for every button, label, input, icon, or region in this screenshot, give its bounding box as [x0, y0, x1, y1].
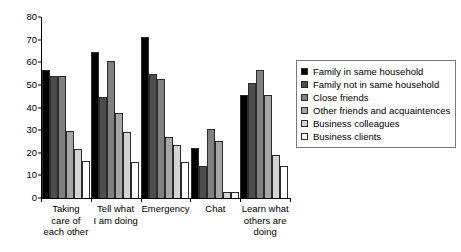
- bar: [58, 76, 66, 198]
- x-axis-label: Learn whatothers aredoing: [240, 203, 290, 238]
- bar: [42, 70, 50, 198]
- bar: [207, 129, 215, 198]
- bar: [50, 76, 58, 198]
- x-group-separator: [41, 198, 42, 202]
- bar-group: [140, 17, 190, 198]
- legend-item: Business clients: [301, 130, 450, 143]
- bar: [173, 145, 181, 198]
- x-group-separator: [240, 198, 241, 202]
- bar: [149, 74, 157, 198]
- x-group-separator: [141, 198, 142, 202]
- x-axis-label: Emergency: [140, 203, 190, 238]
- legend-label: Family not in same household: [313, 80, 439, 90]
- legend-item: Other friends and acquaintences: [301, 104, 450, 117]
- bar: [99, 97, 107, 198]
- bar: [264, 95, 272, 198]
- bar: [66, 131, 74, 198]
- legend-swatch-icon: [301, 133, 308, 140]
- bar: [181, 162, 189, 198]
- bar: [248, 83, 256, 198]
- legend-swatch-icon: [301, 107, 308, 114]
- plot-area: 01020304050607080: [41, 17, 289, 198]
- x-axis-label-line: Emergency: [141, 203, 189, 215]
- bar: [240, 95, 248, 198]
- x-axis-label-line: doing: [241, 226, 289, 238]
- bar-groups: [41, 17, 289, 198]
- legend-label: Business clients: [313, 132, 381, 142]
- bar-chart: 01020304050607080 Takingcare ofeach othe…: [0, 0, 461, 252]
- bar: [191, 148, 199, 198]
- x-axis-label-line: Learn what: [241, 203, 289, 215]
- bar: [74, 149, 82, 198]
- bar: [131, 162, 139, 198]
- bar: [115, 113, 123, 198]
- bar: [272, 155, 280, 198]
- y-tick-label: 40: [26, 103, 41, 113]
- bar: [215, 141, 223, 198]
- legend-label: Business colleagues: [313, 119, 400, 129]
- y-tick-label: 0: [32, 193, 41, 203]
- x-axis-label-line: care of: [42, 215, 90, 227]
- y-tick-label: 30: [26, 125, 41, 135]
- bar: [157, 79, 165, 198]
- legend-label: Other friends and acquaintences: [313, 106, 450, 116]
- bar-group: [91, 17, 141, 198]
- y-tick-label: 20: [26, 148, 41, 158]
- bar: [82, 161, 90, 198]
- x-axis-labels: Takingcare ofeach otherTell whatI am doi…: [41, 203, 290, 238]
- bar: [231, 192, 239, 198]
- legend-label: Family in same household: [313, 67, 423, 77]
- legend-swatch-icon: [301, 120, 308, 127]
- x-axis-label-line: Chat: [192, 203, 240, 215]
- bar-group: [190, 17, 240, 198]
- x-axis-label-line: each other: [42, 226, 90, 238]
- legend-item: Family not in same household: [301, 78, 450, 91]
- y-tick-label: 70: [26, 35, 41, 45]
- y-tick-label: 10: [26, 171, 41, 181]
- bar: [123, 132, 131, 198]
- legend: Family in same householdFamily not in sa…: [296, 60, 456, 148]
- bar: [256, 70, 264, 198]
- bar: [280, 166, 288, 198]
- bar: [141, 37, 149, 198]
- legend-swatch-icon: [301, 94, 308, 101]
- x-axis-label-line: Taking: [42, 203, 90, 215]
- y-tick-label: 60: [26, 58, 41, 68]
- legend-item: Business colleagues: [301, 117, 450, 130]
- bar-group: [239, 17, 289, 198]
- y-tick-label: 80: [26, 12, 41, 22]
- bar: [107, 61, 115, 198]
- legend-item: Close friends: [301, 91, 450, 104]
- legend-item: Family in same household: [301, 65, 450, 78]
- bar: [199, 166, 207, 198]
- x-axis-line: [41, 198, 290, 199]
- x-group-separator: [290, 198, 291, 202]
- x-axis-label: Tell whatI am doing: [91, 203, 141, 238]
- x-group-separator: [190, 198, 191, 202]
- bar: [165, 137, 173, 198]
- bar: [91, 52, 99, 198]
- x-axis-label: Chat: [191, 203, 241, 238]
- x-axis-label-line: Tell what: [92, 203, 140, 215]
- x-group-separator: [91, 198, 92, 202]
- legend-label: Close friends: [313, 93, 368, 103]
- legend-swatch-icon: [301, 68, 308, 75]
- y-tick-label: 50: [26, 80, 41, 90]
- x-axis-label: Takingcare ofeach other: [41, 203, 91, 238]
- bar-group: [41, 17, 91, 198]
- legend-swatch-icon: [301, 81, 308, 88]
- x-axis-label-line: I am doing: [92, 215, 140, 227]
- bar: [223, 192, 231, 198]
- x-axis-label-line: others are: [241, 215, 289, 227]
